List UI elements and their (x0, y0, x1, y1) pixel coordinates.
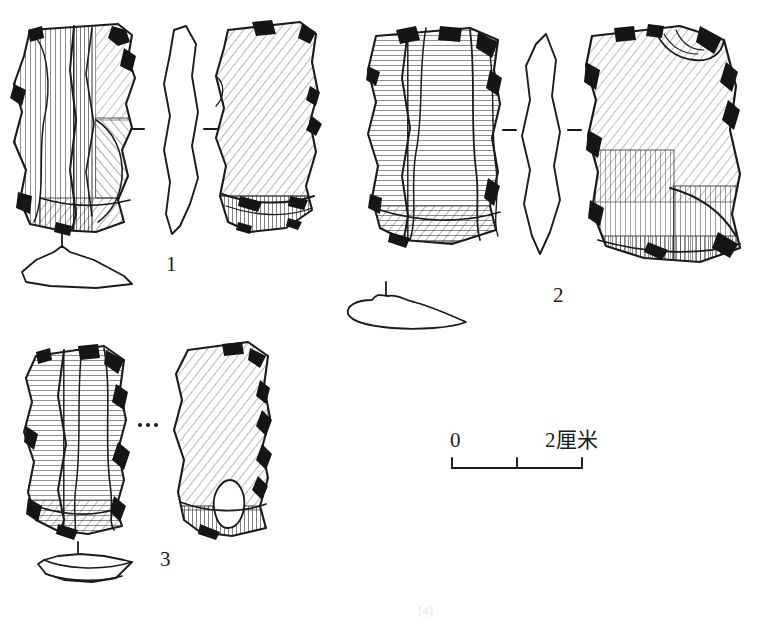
artifact-2-ventral-view (366, 26, 506, 248)
scale-bar-group: 0 2厘米 (446, 430, 626, 476)
artifact-2-profile-view (522, 34, 560, 254)
artifact-2-dorsal-view (584, 24, 744, 266)
citation-marker: [4] (418, 604, 433, 617)
artifact-1-profile-view (164, 26, 198, 234)
artifact-3-label: 3 (160, 549, 171, 570)
artifact-3-registration-dots (138, 423, 158, 427)
artifact-2-cross-section (348, 282, 466, 329)
artifact-1-cross-section (22, 232, 132, 288)
artifact-3-dorsal-view (172, 340, 272, 540)
artifact-1-ventral-view (10, 20, 142, 240)
artifact-3-cross-section (38, 542, 132, 582)
lithic-drawings (0, 0, 758, 620)
figure-plate: 1 2 3 0 2厘米 [4] (0, 0, 758, 620)
scale-max-label: 2厘米 (545, 430, 598, 451)
artifact-1-dorsal-view (214, 18, 322, 236)
artifact-2-label: 2 (553, 285, 564, 306)
artifact-1-label: 1 (166, 254, 177, 275)
artifact-3-ventral-view (24, 344, 130, 540)
scale-min-label: 0 (450, 430, 461, 451)
